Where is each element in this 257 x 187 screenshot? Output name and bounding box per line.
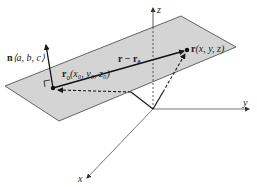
y-axis-label: y	[243, 98, 247, 108]
z-axis-label: z	[157, 5, 161, 15]
vector-diff-label: r − r₀	[118, 54, 140, 64]
point-r-label: r(x, y, z)	[191, 44, 224, 54]
x-axis-label: x	[78, 174, 82, 184]
diagram-graphics	[0, 0, 257, 187]
position-vector-r0-solid	[131, 92, 153, 109]
x-axis	[87, 109, 153, 178]
normal-label: n⟨a, b, c⟩	[7, 53, 45, 63]
plane-normal-diagram: n⟨a, b, c⟩ r0(x₀, y₀, z₀) r − r₀ r(x, y,…	[0, 0, 257, 187]
point-r0	[51, 86, 55, 90]
position-vector-r-solid	[153, 92, 163, 109]
point-r	[185, 48, 189, 52]
point-r0-label: r0(x₀, y₀, z₀)	[62, 69, 110, 82]
